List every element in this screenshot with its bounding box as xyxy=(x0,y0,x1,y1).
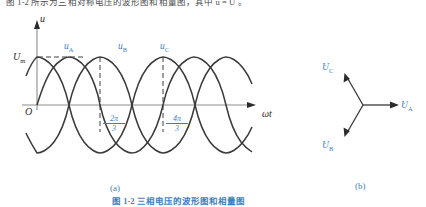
tick-label-2pi-over-3: 2π 3 xyxy=(103,114,125,133)
tick-2pi-denominator: 3 xyxy=(103,124,125,133)
phasor-label-uC: .UC xyxy=(322,62,333,76)
phasor-arrow-uB xyxy=(344,105,363,137)
tick-4pi-numerator: 4π xyxy=(166,114,188,124)
waveform-svg xyxy=(0,14,300,194)
x-axis-label: ωt xyxy=(262,109,272,119)
curve-label-uB: uB xyxy=(118,42,127,54)
y-axis-label: u xyxy=(40,14,45,24)
phasor-uC-subscript: C xyxy=(329,67,333,74)
tick-label-4pi-over-3: 4π 3 xyxy=(166,114,188,133)
phasor-uC-dot: . xyxy=(324,58,326,68)
figure-caption-clipped: 图 1-2 三相电压的波形图和相量图 xyxy=(112,196,342,207)
curve-label-uB-subscript: B xyxy=(123,46,127,53)
figure-three-phase-voltage: 图 1-2 所示为三相对称电压的波形图和相量图，其中 u = U 。 xyxy=(0,0,426,207)
x-axis xyxy=(22,102,256,108)
phasor-uB-dot: . xyxy=(324,136,326,146)
curve-label-uC: uC xyxy=(160,42,169,54)
page-body-text-clipped: 图 1-2 所示为三相对称电压的波形图和相量图，其中 u = U 。 xyxy=(6,0,336,7)
phasor-panel: .UA .UC .UB (b) xyxy=(300,30,426,190)
peak-value-subscript: m xyxy=(20,57,25,64)
tick-2pi-numerator: 2π xyxy=(103,114,125,124)
tick-4pi-denominator: 3 xyxy=(166,124,188,133)
phasor-arrow-uA xyxy=(363,102,399,109)
origin-label: O xyxy=(25,107,32,117)
peak-value-label: Um xyxy=(13,52,25,66)
curve-label-uA-subscript: A xyxy=(69,46,74,53)
phasor-uB-subscript: B xyxy=(329,145,333,152)
phasor-uA-dot: . xyxy=(403,96,405,106)
phasor-uA-subscript: A xyxy=(408,105,413,112)
phasor-label-uB: .UB xyxy=(322,140,333,154)
phasor-label-uA: .UA xyxy=(401,100,413,114)
panel-b-caption: (b) xyxy=(355,182,366,191)
panel-a-caption: (a) xyxy=(110,184,120,193)
waveform-panel: u O Um ωt uA uB uC 2π 3 4π 3 (a) xyxy=(0,14,300,194)
phasor-arrow-uC xyxy=(344,73,363,105)
curve-label-uC-subscript: C xyxy=(165,46,169,53)
curve-label-uA: uA xyxy=(64,42,73,54)
